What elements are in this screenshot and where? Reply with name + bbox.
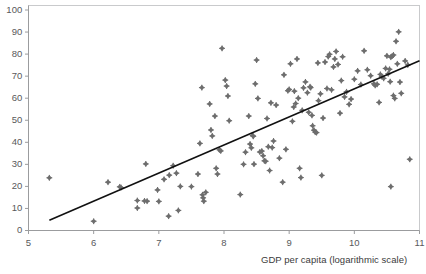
data-point xyxy=(337,110,343,116)
y-tick-label: 70 xyxy=(0,70,23,81)
data-point xyxy=(209,133,215,139)
data-point xyxy=(333,49,339,55)
data-point xyxy=(303,79,309,85)
data-point xyxy=(219,45,225,51)
data-point xyxy=(166,172,172,178)
data-point xyxy=(177,184,183,190)
data-point xyxy=(91,218,97,224)
data-point xyxy=(143,161,149,167)
x-tick-label: 9 xyxy=(269,237,309,248)
x-axis-title: GDP per capita (logarithmic scale) xyxy=(261,254,407,265)
data-point xyxy=(342,94,348,100)
data-point xyxy=(396,29,402,35)
data-point xyxy=(175,208,181,214)
data-point xyxy=(398,90,404,96)
x-tick-label: 10 xyxy=(334,237,374,248)
y-tick-label: 20 xyxy=(0,180,23,191)
data-point xyxy=(280,179,286,185)
y-tick-label: 50 xyxy=(0,114,23,125)
data-point xyxy=(195,171,201,177)
data-point xyxy=(319,172,325,178)
data-point xyxy=(265,144,271,150)
data-point xyxy=(388,184,394,190)
data-point xyxy=(351,76,357,82)
data-point xyxy=(338,78,344,84)
x-tick-label: 8 xyxy=(204,237,244,248)
plot-svg xyxy=(0,0,426,274)
data-point xyxy=(189,184,195,190)
data-point xyxy=(224,83,230,89)
data-point xyxy=(197,141,203,147)
data-point xyxy=(207,101,213,107)
data-point xyxy=(376,99,382,105)
data-point xyxy=(155,187,161,193)
data-point xyxy=(269,145,275,151)
data-point xyxy=(243,149,249,155)
data-point xyxy=(134,198,140,204)
data-point xyxy=(301,85,307,91)
data-point xyxy=(368,73,374,79)
data-point xyxy=(383,66,389,72)
data-point xyxy=(297,165,303,171)
data-points xyxy=(46,29,412,224)
data-point xyxy=(407,156,413,162)
data-point xyxy=(364,67,370,73)
data-point xyxy=(174,170,180,176)
y-tick-label: 30 xyxy=(0,158,23,169)
data-point xyxy=(251,161,257,167)
y-tick-label: 80 xyxy=(0,48,23,59)
data-point xyxy=(276,155,282,161)
data-point xyxy=(268,100,274,106)
data-point xyxy=(215,171,221,177)
data-point xyxy=(397,79,403,85)
data-point xyxy=(322,59,328,65)
x-tick-label: 7 xyxy=(139,237,179,248)
data-point xyxy=(225,93,231,99)
y-tick-label: 0 xyxy=(0,224,23,235)
y-axis-ticks xyxy=(25,10,29,231)
data-point xyxy=(254,57,260,63)
data-point xyxy=(298,175,304,181)
data-point xyxy=(294,56,300,62)
data-point xyxy=(387,79,393,85)
data-point xyxy=(315,60,321,66)
data-point xyxy=(318,91,324,97)
data-point xyxy=(355,68,361,74)
scatter-chart: 0102030405060708090100 567891011 GDP per… xyxy=(0,0,426,274)
data-point xyxy=(290,118,296,124)
x-tick-label: 6 xyxy=(74,237,114,248)
data-point xyxy=(273,102,279,108)
y-tick-label: 40 xyxy=(0,136,23,147)
data-point xyxy=(156,198,162,204)
x-tick-label: 5 xyxy=(9,237,49,248)
data-point xyxy=(361,48,367,54)
data-point xyxy=(320,115,326,121)
data-point xyxy=(252,81,258,87)
data-point xyxy=(267,168,273,174)
data-point xyxy=(305,90,311,96)
data-point xyxy=(134,205,140,211)
data-point xyxy=(310,123,316,129)
data-point xyxy=(288,61,294,67)
data-point xyxy=(212,113,218,119)
data-point xyxy=(291,88,297,94)
data-point xyxy=(394,61,400,67)
data-point xyxy=(387,66,393,72)
data-point xyxy=(348,96,354,102)
data-point xyxy=(213,165,219,171)
data-point xyxy=(324,86,330,92)
y-tick-label: 100 xyxy=(0,4,23,15)
data-point xyxy=(199,85,205,91)
plot-frame xyxy=(29,6,420,231)
y-tick-label: 10 xyxy=(0,202,23,213)
data-point xyxy=(201,198,207,204)
data-point xyxy=(271,138,277,144)
data-point xyxy=(332,56,338,62)
x-tick-label: 11 xyxy=(400,237,426,248)
data-point xyxy=(255,96,261,102)
data-point xyxy=(281,72,287,78)
data-point xyxy=(393,38,399,44)
data-point xyxy=(260,153,266,159)
data-point xyxy=(161,176,167,182)
data-point xyxy=(295,95,301,101)
